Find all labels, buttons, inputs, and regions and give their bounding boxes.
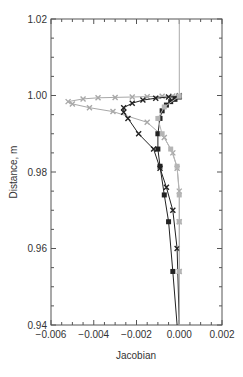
- x-tick-label: −0.002: [121, 329, 152, 340]
- y-tick-label: 0.94: [28, 320, 48, 331]
- series-path: [68, 96, 179, 326]
- y-tick-label: 0.96: [28, 243, 48, 254]
- series-path: [158, 96, 179, 325]
- y-tick-label: 0.98: [28, 167, 48, 178]
- data-series: [66, 19, 182, 325]
- y-tick-label: 1.00: [28, 90, 48, 101]
- square-marker-icon: [155, 116, 160, 121]
- square-marker-icon: [175, 164, 180, 169]
- square-marker-icon: [162, 104, 167, 109]
- x-marker-icon: [151, 147, 156, 152]
- series-path: [124, 96, 180, 325]
- axis-ticks: [51, 19, 222, 325]
- square-marker-icon: [155, 147, 160, 152]
- tick-labels: −0.006−0.004−0.0020.0000.0020.940.960.98…: [28, 14, 235, 341]
- y-axis-label: Distance, m: [8, 146, 19, 199]
- x-tick-label: −0.004: [78, 329, 109, 340]
- x-marker-icon: [145, 120, 150, 125]
- jacobian-chart: −0.006−0.004−0.0020.0000.0020.940.960.98…: [0, 0, 243, 377]
- series-line: [66, 93, 182, 325]
- square-marker-icon: [155, 131, 160, 136]
- square-marker-icon: [177, 219, 182, 224]
- series-line: [155, 94, 181, 325]
- x-tick-label: −0.006: [36, 329, 67, 340]
- square-marker-icon: [162, 192, 167, 197]
- series-line: [121, 94, 182, 325]
- y-tick-label: 1.02: [28, 14, 48, 25]
- plot-border: [51, 19, 222, 325]
- x-axis-label: Jacobian: [116, 350, 156, 361]
- square-marker-icon: [158, 164, 163, 169]
- square-marker-icon: [177, 192, 182, 197]
- x-tick-label: 0.002: [209, 329, 234, 340]
- square-marker-icon: [166, 219, 171, 224]
- series-line: [155, 95, 181, 325]
- square-marker-icon: [168, 147, 173, 152]
- x-tick-label: 0.000: [167, 329, 192, 340]
- square-marker-icon: [177, 94, 182, 99]
- square-marker-icon: [160, 131, 165, 136]
- plot-frame: [51, 19, 222, 325]
- x-marker-icon: [136, 131, 141, 136]
- square-marker-icon: [170, 269, 175, 274]
- square-marker-icon: [177, 269, 182, 274]
